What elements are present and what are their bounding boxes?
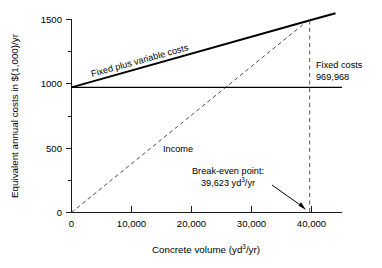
annotation-fixed-costs-line1: Fixed costs <box>316 60 363 70</box>
annotation-break-even-line2: 39,623 yd3/yr <box>201 176 255 188</box>
annotation-break-even: Break-even point: 39,623 yd3/yr <box>192 166 306 210</box>
y-axis-tick-labels: 1500 1000 500 0 <box>41 14 62 218</box>
annotation-fixed-costs-line2: 969,968 <box>316 72 349 82</box>
y-tick-label-1500: 1500 <box>41 14 62 25</box>
x-axis-ticks <box>72 206 312 213</box>
y-axis-title: Equivalent annual costs in $(1,000)/yr <box>9 33 20 198</box>
x-axis-title-tail: /yr) <box>246 244 260 255</box>
chart-figure: 1500 1000 500 0 0 10,000 20,000 30,000 4… <box>0 0 382 268</box>
y-axis-title-text: Equivalent annual costs in $(1,000)/yr <box>9 33 20 198</box>
x-tick-label-20000: 20,000 <box>177 218 206 229</box>
y-tick-label-0: 0 <box>57 207 62 218</box>
svg-text:Concrete volume (yd3/yr): Concrete volume (yd3/yr) <box>152 243 260 255</box>
annotation-fixed-costs: Fixed costs 969,968 <box>316 60 363 82</box>
annotation-break-even-tail: /yr <box>245 178 255 188</box>
annotation-break-even-value: 39,623 yd <box>201 178 241 188</box>
x-tick-label-40000: 40,000 <box>297 218 326 229</box>
y-axis-ticks <box>66 20 72 213</box>
series-label-income: Income <box>163 144 193 154</box>
annotation-break-even-line1: Break-even point: <box>192 166 264 176</box>
y-tick-label-500: 500 <box>46 143 62 154</box>
x-axis-tick-labels: 0 10,000 20,000 30,000 40,000 <box>69 218 326 229</box>
x-axis-title-main: Concrete volume (yd <box>152 244 242 255</box>
x-tick-label-10000: 10,000 <box>117 218 146 229</box>
x-tick-label-30000: 30,000 <box>237 218 266 229</box>
y-tick-label-1000: 1000 <box>41 78 62 89</box>
x-tick-label-0: 0 <box>69 218 74 229</box>
series-label-fixed-plus-variable-text: Fixed plus variable costs <box>90 42 190 79</box>
x-axis-title: Concrete volume (yd3/yr) <box>152 243 260 255</box>
break-even-chart: 1500 1000 500 0 0 10,000 20,000 30,000 4… <box>0 0 382 268</box>
series-fixed-plus-variable-line <box>72 13 336 87</box>
annotation-break-even-arrow-head <box>299 202 307 210</box>
series-label-fixed-plus-variable: Fixed plus variable costs <box>90 42 190 79</box>
series-label-income-text: Income <box>163 144 193 154</box>
series-income-line <box>72 20 310 213</box>
annotation-break-even-arrow-shaft <box>272 185 303 207</box>
